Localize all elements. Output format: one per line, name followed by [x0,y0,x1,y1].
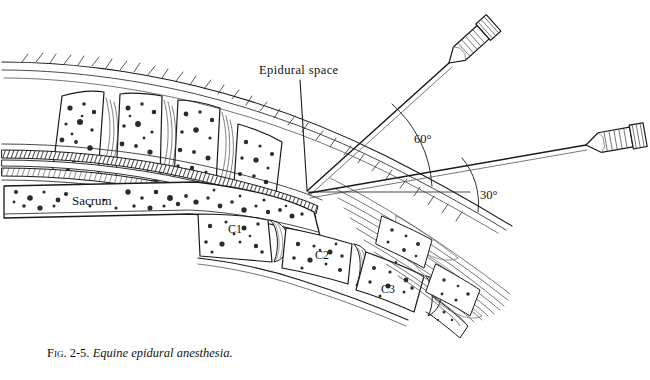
anatomy-line-drawing [0,0,650,380]
bone-stipple [238,140,274,185]
label-angle-30: 30° [480,188,498,203]
label-sacrum: Sacrum [72,193,112,209]
needle-upper-hub [442,15,501,71]
figure-title: Equine epidural anesthesia. [93,346,233,360]
angle-arcs [392,104,479,212]
figure-number: Fig. 2-5. [47,346,90,360]
label-angle-60: 60° [414,132,432,147]
label-epidural-space: Epidural space [259,63,339,78]
figure-illustration: Epidural space Sacrum C1 C2 C3 60° 30° F… [0,0,650,380]
needle-upper [307,15,501,195]
label-vertebra-c1: C1 [228,222,242,237]
label-vertebra-c3: C3 [381,282,395,297]
label-vertebra-c2: C2 [315,248,329,263]
needle-lower-hub [584,123,647,157]
figure-caption: Fig. 2-5. Equine epidural anesthesia. [47,346,233,361]
